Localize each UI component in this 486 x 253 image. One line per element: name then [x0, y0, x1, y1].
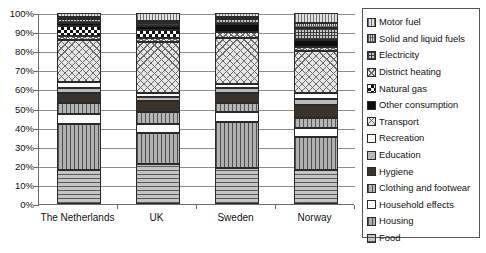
stacked-bar[interactable]	[215, 13, 259, 204]
legend-item-label: Transport	[379, 117, 419, 127]
bar-segment[interactable]	[57, 23, 101, 27]
bar-segment[interactable]	[57, 19, 101, 23]
legend-swatch-icon	[367, 234, 376, 243]
bar-segment[interactable]	[215, 19, 259, 25]
bar-segment[interactable]	[57, 114, 101, 124]
bar-segment[interactable]	[57, 17, 101, 19]
legend-swatch-icon	[367, 34, 376, 43]
legend-item-label: Motor fuel	[379, 17, 421, 27]
bar-segment[interactable]	[215, 38, 259, 84]
bar-segment[interactable]	[215, 168, 259, 204]
y-axis-label: 10%	[0, 181, 34, 191]
x-axis-tick	[275, 205, 276, 209]
y-axis-tick	[34, 71, 39, 72]
bar-segment[interactable]	[215, 84, 259, 88]
legend-item-label: Other consumption	[379, 100, 458, 110]
bar-segment[interactable]	[57, 103, 101, 114]
legend-item[interactable]: Other consumption	[367, 97, 476, 114]
bar-segment[interactable]	[136, 42, 180, 94]
y-axis-tick	[34, 110, 39, 111]
bar-segment[interactable]	[215, 122, 259, 168]
bar-segment[interactable]	[136, 97, 180, 101]
bar-segment[interactable]	[57, 13, 101, 17]
bar-segment[interactable]	[57, 170, 101, 204]
bar-segment[interactable]	[294, 105, 338, 118]
legend-item[interactable]: Food	[367, 230, 476, 247]
legend-item[interactable]: Household effects	[367, 197, 476, 214]
legend-item[interactable]: Clothing and footwear	[367, 180, 476, 197]
legend-item[interactable]: Hygiene	[367, 163, 476, 180]
bar-segment[interactable]	[136, 101, 180, 112]
y-axis-tick	[34, 167, 39, 168]
bar-segment[interactable]	[136, 13, 180, 21]
legend-item[interactable]: Housing	[367, 213, 476, 230]
legend-item[interactable]: Recreation	[367, 130, 476, 147]
bar-segment[interactable]	[136, 26, 180, 30]
bar-segment[interactable]	[136, 112, 180, 123]
bar-segment[interactable]	[136, 21, 180, 23]
bar-segment[interactable]	[215, 112, 259, 122]
legend-item[interactable]: Motor fuel	[367, 14, 476, 31]
bar-segment[interactable]	[294, 137, 338, 169]
bar-segment[interactable]	[136, 93, 180, 97]
bar-segment[interactable]	[294, 93, 338, 99]
y-axis-tick	[34, 129, 39, 130]
legend-item[interactable]: District heating	[367, 64, 476, 81]
bar-segment[interactable]	[294, 51, 338, 93]
bar-segment[interactable]	[57, 88, 101, 94]
stacked-bar[interactable]	[294, 13, 338, 204]
bar-segment[interactable]	[57, 124, 101, 170]
y-axis-tick	[34, 52, 39, 53]
bar-segment[interactable]	[294, 118, 338, 128]
bar-segment[interactable]	[294, 170, 338, 204]
bar-segment[interactable]	[215, 103, 259, 113]
stacked-bar[interactable]	[136, 13, 180, 204]
x-axis-label: The Netherlands	[38, 212, 117, 223]
y-axis-label: 80%	[0, 47, 34, 57]
legend-item[interactable]: Education	[367, 147, 476, 164]
bar-segment[interactable]	[294, 99, 338, 105]
legend-swatch-icon	[367, 217, 376, 226]
bar-segment[interactable]	[215, 13, 259, 17]
x-axis-label: Norway	[275, 212, 354, 223]
y-axis-label: 40%	[0, 124, 34, 134]
y-axis-tick	[34, 186, 39, 187]
bar-segment[interactable]	[294, 28, 338, 39]
y-axis-tick	[34, 14, 39, 15]
bar-segment[interactable]	[57, 40, 101, 82]
x-axis-tick	[196, 205, 197, 209]
bar-segment[interactable]	[294, 23, 338, 29]
bar-segment[interactable]	[136, 30, 180, 38]
bar-segment[interactable]	[136, 133, 180, 164]
stacked-bar[interactable]	[57, 13, 101, 204]
bar-segment[interactable]	[215, 17, 259, 19]
bar-segment[interactable]	[215, 93, 259, 103]
legend-item-label: Recreation	[379, 133, 424, 143]
bar-segment[interactable]	[136, 23, 180, 27]
bar-segment[interactable]	[215, 24, 259, 32]
bar-segment[interactable]	[215, 32, 259, 38]
legend-swatch-icon	[367, 151, 376, 160]
bar-segment[interactable]	[294, 128, 338, 138]
y-axis-tick	[34, 148, 39, 149]
legend-item-label: Natural gas	[379, 84, 427, 94]
bar-segment[interactable]	[136, 124, 180, 134]
bar-segment[interactable]	[57, 26, 101, 36]
bar-segment[interactable]	[136, 164, 180, 204]
legend-item[interactable]: Solid and liquid fuels	[367, 31, 476, 48]
legend-swatch-icon	[367, 134, 376, 143]
bar-segment[interactable]	[57, 93, 101, 103]
bar-segment[interactable]	[294, 47, 338, 51]
legend-item[interactable]: Electricity	[367, 47, 476, 64]
y-axis-tick	[34, 33, 39, 34]
bar-segment[interactable]	[136, 38, 180, 42]
bar-segment[interactable]	[294, 40, 338, 48]
bar-segment[interactable]	[57, 82, 101, 88]
legend-item[interactable]: Transport	[367, 114, 476, 131]
legend-item-label: Food	[379, 233, 400, 243]
bar-segment[interactable]	[215, 88, 259, 94]
legend-item[interactable]: Natural gas	[367, 80, 476, 97]
bar-segment[interactable]	[294, 13, 338, 23]
legend-swatch-icon	[367, 200, 376, 209]
bar-segment[interactable]	[57, 36, 101, 40]
